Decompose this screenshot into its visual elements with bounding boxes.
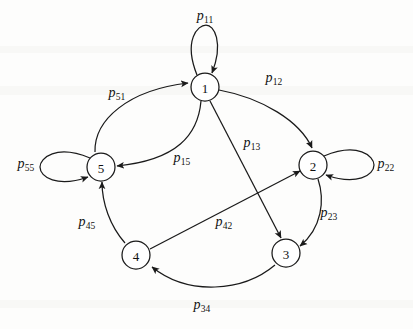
node-1[interactable]: 1 (191, 73, 219, 101)
edge-label-p12-subscript: 12 (273, 77, 283, 87)
edge-label-p51-subscript: 51 (116, 92, 126, 102)
edge-label-p12: p12 (266, 71, 283, 87)
edge-label-p51: p51 (109, 86, 126, 102)
edge-label-p55-subscript: 55 (25, 163, 35, 173)
node-3-label: 3 (283, 247, 290, 262)
edge-p55-self-loop (40, 152, 90, 182)
edge-label-p45: p45 (79, 215, 96, 231)
edge-p34 (152, 265, 275, 287)
edge-p12 (219, 90, 312, 148)
edge-label-p23: p23 (321, 206, 338, 222)
edge-label-p22-subscript: 22 (385, 163, 395, 173)
edge-p22-self-loop (324, 150, 374, 180)
edge-label-p23-subscript: 23 (328, 212, 338, 222)
edge-label-p55: p55 (18, 157, 35, 173)
edge-p11-self-loop (191, 25, 217, 75)
edge-label-p42: p42 (216, 215, 233, 231)
edge-p23 (300, 179, 321, 246)
figure-canvas: 1 2 3 4 5 p11 p22 p55 p12 p51 p15 (0, 0, 413, 329)
edge-label-p45-subscript: 45 (86, 221, 96, 231)
node-2[interactable]: 2 (299, 151, 327, 179)
edge-label-p22: p22 (378, 157, 395, 173)
edge-label-p42-subscript: 42 (223, 221, 233, 231)
edge-label-p34-subscript: 34 (201, 304, 211, 314)
edge-p42 (150, 171, 300, 249)
node-5[interactable]: 5 (87, 153, 115, 181)
edge-label-p11-subscript: 11 (204, 15, 213, 25)
node-4-label: 4 (133, 249, 140, 264)
node-2-label: 2 (310, 159, 317, 174)
node-4[interactable]: 4 (122, 241, 150, 269)
edge-label-p13: p13 (244, 136, 261, 152)
state-diagram: 1 2 3 4 5 (0, 0, 413, 329)
edge-label-p11: p11 (197, 9, 214, 25)
edge-label-p13-subscript: 13 (251, 142, 261, 152)
node-1-label: 1 (202, 81, 209, 96)
edge-label-p34: p34 (194, 298, 211, 314)
node-5-label: 5 (98, 161, 105, 176)
edge-label-p15-subscript: 15 (181, 157, 191, 167)
edge-label-p15: p15 (174, 151, 191, 167)
node-3[interactable]: 3 (272, 239, 300, 267)
edge-p45 (102, 182, 125, 243)
